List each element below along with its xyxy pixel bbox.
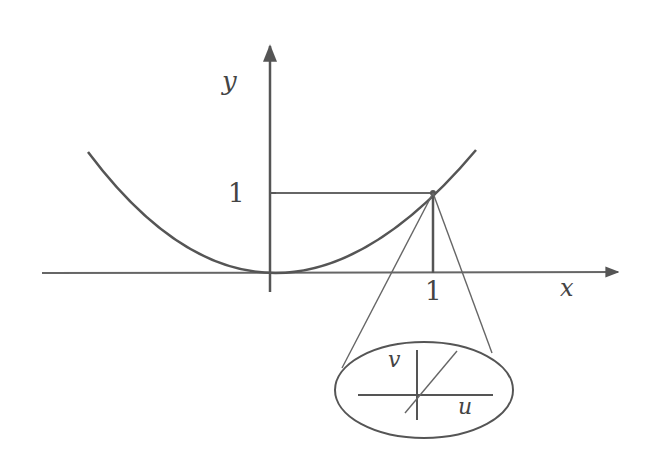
y-axis-label: y — [222, 68, 237, 94]
x-axis-label: x — [560, 276, 574, 300]
x-tick-label: 1 — [425, 278, 442, 304]
parabola-diagram — [0, 0, 651, 464]
zoom-v-label: v — [388, 349, 400, 371]
x-axis — [42, 272, 618, 273]
zoom-u-label: u — [458, 396, 472, 418]
parabola-curve — [88, 150, 476, 273]
y-tick-label: 1 — [228, 180, 245, 206]
